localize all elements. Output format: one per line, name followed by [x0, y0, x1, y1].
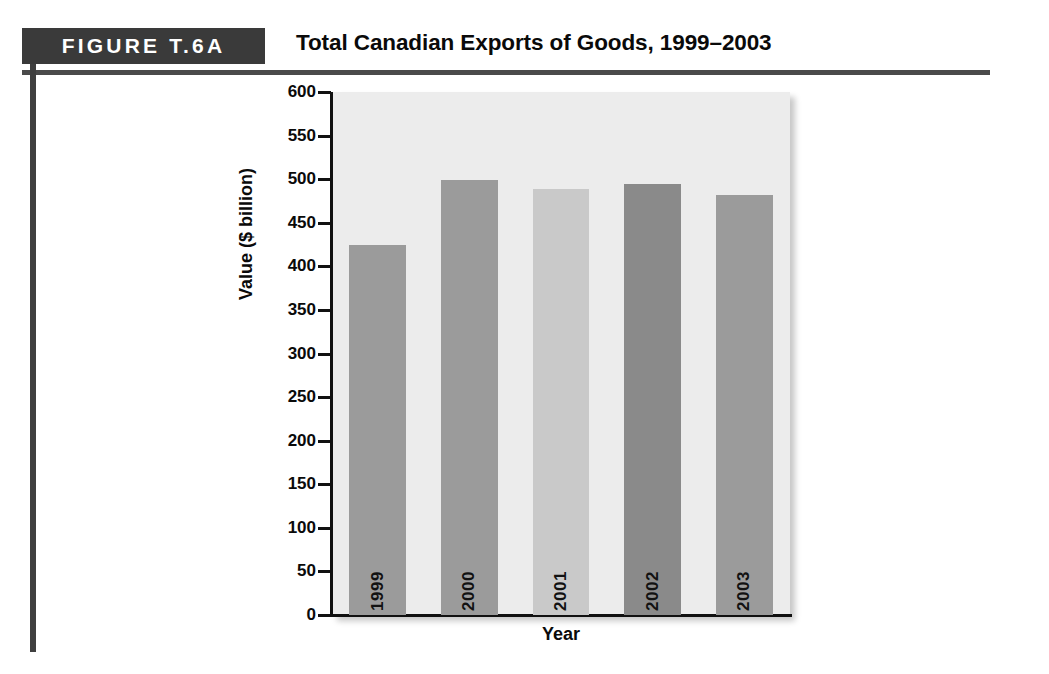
bar-year-label: 2001 [551, 571, 571, 611]
bar-year-label: 2002 [643, 571, 663, 611]
left-margin-rule [30, 64, 36, 652]
y-axis-tick-mark [318, 178, 331, 181]
y-axis-tick-mark [318, 91, 331, 94]
y-axis-tick-label: 600 [262, 83, 316, 100]
y-axis-tick-mark [318, 265, 331, 268]
y-axis-tick-label: 0 [262, 606, 316, 623]
y-axis-tick-label: 450 [262, 214, 316, 231]
y-axis-title: Value ($ billion) [236, 168, 257, 300]
y-axis-tick-mark [318, 527, 331, 530]
y-axis-tick-mark [318, 309, 331, 312]
bar-2001: 2001 [533, 189, 590, 615]
header-divider-rule [22, 70, 990, 75]
y-axis-tick-mark [318, 396, 331, 399]
y-axis-tick-mark [318, 614, 331, 617]
y-axis-tick-label: 400 [262, 257, 316, 274]
figure-label-band: FIGURE T.6A [22, 28, 265, 64]
y-axis-tick-label: 350 [262, 301, 316, 318]
y-axis-tick-label: 150 [262, 475, 316, 492]
y-axis-tick-label: 550 [262, 127, 316, 144]
y-axis-tick-mark [318, 483, 331, 486]
figure-title: Total Canadian Exports of Goods, 1999–20… [296, 30, 772, 56]
bar-year-label: 1999 [368, 571, 388, 611]
bars-layer: 19992000200120022003 [332, 92, 790, 615]
figure-label: FIGURE T.6A [22, 28, 265, 64]
y-axis-tick-label: 50 [262, 562, 316, 579]
y-axis-tick-label: 500 [262, 170, 316, 187]
y-axis-tick-mark [318, 135, 331, 138]
x-axis-title: Year [332, 624, 790, 645]
bar-year-label: 2000 [459, 571, 479, 611]
y-axis-tick-label: 300 [262, 345, 316, 362]
y-axis-tick-label: 100 [262, 519, 316, 536]
y-axis-tick-label: 250 [262, 388, 316, 405]
y-axis-tick-mark [318, 440, 331, 443]
bar-2002: 2002 [624, 184, 681, 615]
figure-container: FIGURE T.6A Total Canadian Exports of Go… [0, 0, 1049, 674]
bar-2003: 2003 [716, 195, 773, 615]
bar-2000: 2000 [441, 180, 498, 615]
y-axis-tick-mark [318, 222, 331, 225]
y-axis-ticks: 050100150200250300350400450500550600 [248, 0, 316, 674]
y-axis-tick-label: 200 [262, 432, 316, 449]
y-axis-tick-mark [318, 570, 331, 573]
bar-year-label: 2003 [734, 571, 754, 611]
bar-1999: 1999 [349, 245, 406, 615]
y-axis-tick-mark [318, 353, 331, 356]
